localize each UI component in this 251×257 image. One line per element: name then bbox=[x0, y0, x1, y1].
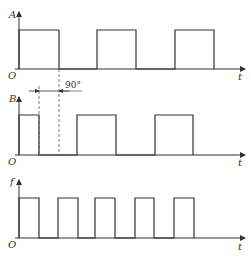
y-label-a: A bbox=[8, 9, 16, 20]
origin-label-a: O bbox=[8, 70, 16, 81]
y-label-b: B bbox=[8, 93, 16, 104]
x-label-f: t bbox=[238, 241, 243, 252]
origin-label-b: O bbox=[8, 156, 16, 167]
origin-label-f: O bbox=[8, 239, 16, 250]
plot-f: f O t bbox=[8, 176, 245, 252]
x-label-b: t bbox=[238, 157, 243, 168]
plot-a: A O t bbox=[8, 9, 245, 82]
y-label-f: f bbox=[9, 176, 16, 187]
timing-diagram: A O t B O t 90° f O t bbox=[0, 0, 251, 257]
phase-annotation: 90° bbox=[65, 80, 81, 90]
plot-b: B O t 90° bbox=[8, 69, 245, 168]
waveform-f bbox=[19, 198, 194, 238]
waveform-b bbox=[19, 115, 193, 155]
x-label-a: t bbox=[238, 71, 243, 82]
waveform-a bbox=[19, 30, 214, 69]
